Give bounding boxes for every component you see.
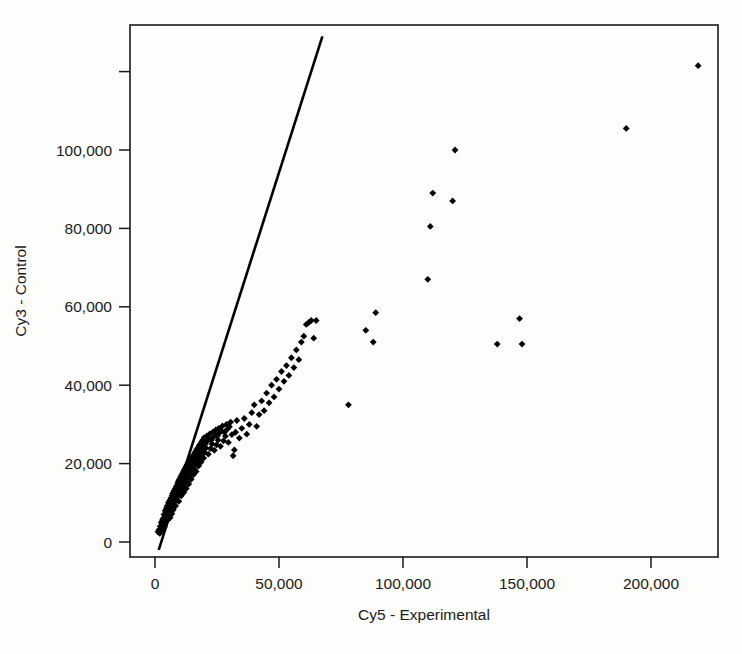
y-axis-tick-labels: 020,00040,00060,00080,000100,000 [56, 142, 112, 551]
y-tick-label: 20,000 [65, 455, 113, 472]
data-point [494, 341, 501, 348]
data-point [427, 223, 434, 230]
data-point [313, 317, 320, 324]
data-point [263, 390, 270, 397]
x-axis-tick-marks [155, 557, 651, 568]
data-point [253, 423, 260, 430]
data-point [286, 372, 293, 379]
y-tick-label: 100,000 [56, 142, 112, 159]
identity-trend-line [159, 36, 323, 550]
data-point [452, 147, 459, 154]
data-point [310, 335, 317, 342]
data-point [271, 394, 278, 401]
data-point [241, 415, 248, 422]
data-point [362, 327, 369, 334]
data-point [516, 315, 523, 322]
y-axis-tick-marks [119, 72, 130, 542]
scatter-plot-figure: 050,000100,000150,000200,000 020,00040,0… [0, 0, 742, 654]
data-point [261, 407, 268, 414]
data-point [449, 198, 456, 205]
plot-canvas: 050,000100,000150,000200,000 020,00040,0… [0, 0, 742, 654]
data-point [248, 409, 255, 416]
data-point [281, 378, 288, 385]
data-point [290, 364, 297, 371]
x-axis-title: Cy5 - Experimental [358, 606, 490, 623]
data-point [256, 411, 263, 418]
plot-frame [130, 25, 718, 557]
data-point [243, 431, 250, 438]
data-point [372, 309, 379, 316]
data-point [429, 190, 436, 197]
data-point [233, 417, 240, 424]
data-point [424, 276, 431, 283]
x-tick-label: 150,000 [499, 575, 555, 592]
data-point [236, 435, 243, 442]
data-point [300, 333, 307, 340]
data-point [276, 386, 283, 393]
y-tick-label: 40,000 [65, 377, 113, 394]
data-point [695, 62, 702, 69]
data-point [238, 425, 245, 432]
data-point [278, 368, 285, 375]
data-point [231, 446, 238, 453]
x-axis-tick-labels: 050,000100,000150,000200,000 [151, 575, 680, 592]
data-point [288, 354, 295, 361]
y-tick-label: 80,000 [65, 220, 113, 237]
data-point [298, 339, 305, 346]
x-tick-label: 200,000 [623, 575, 679, 592]
data-point [295, 356, 302, 363]
data-point [370, 339, 377, 346]
x-tick-label: 50,000 [255, 575, 303, 592]
x-tick-label: 100,000 [375, 575, 431, 592]
y-tick-label: 0 [103, 534, 112, 551]
data-point [623, 125, 630, 132]
data-point [266, 399, 273, 406]
data-point [283, 362, 290, 369]
x-tick-label: 0 [151, 575, 160, 592]
data-point [246, 421, 253, 428]
data-point [268, 382, 275, 389]
data-point [258, 397, 265, 404]
data-point [519, 341, 526, 348]
data-point [230, 452, 237, 459]
data-point [251, 401, 258, 408]
data-point [293, 347, 300, 354]
y-tick-label: 60,000 [65, 298, 113, 315]
y-axis-title: Cy3 - Control [12, 245, 29, 336]
data-point [273, 376, 280, 383]
data-point [345, 401, 352, 408]
data-point-series [155, 62, 702, 536]
